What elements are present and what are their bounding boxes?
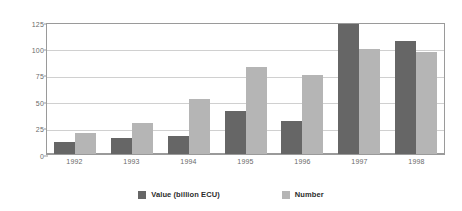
y-tick-label-125: 125 <box>8 20 44 27</box>
bar-value-1993 <box>111 138 132 154</box>
bar-value-1994 <box>168 136 189 154</box>
x-axis-label-1992: 1992 <box>46 158 103 165</box>
bar-group-1997 <box>331 24 388 154</box>
bar-number-1998 <box>416 52 437 154</box>
bar-value-1998 <box>395 41 416 154</box>
y-tick-label-50: 50 <box>8 99 44 106</box>
bar-group-1998 <box>387 24 444 154</box>
bar-group-1996 <box>274 24 331 154</box>
bar-number-1997 <box>359 49 380 154</box>
x-axis-label-1998: 1998 <box>388 158 445 165</box>
legend-item-number: Number <box>282 190 324 199</box>
x-axis-label-1993: 1993 <box>103 158 160 165</box>
legend-swatch-value-icon <box>138 191 146 199</box>
legend-item-value: Value (billion ECU) <box>138 190 220 199</box>
bar-value-1996 <box>281 121 302 154</box>
bar-group-1994 <box>160 24 217 154</box>
bar-chart: 125 100 75 50 25 0 19921 <box>0 0 462 211</box>
bar-number-1994 <box>189 99 210 154</box>
bar-group-1995 <box>217 24 274 154</box>
y-axis: 125 100 75 50 25 0 <box>0 23 44 156</box>
x-axis-label-1995: 1995 <box>217 158 274 165</box>
bar-number-1993 <box>132 123 153 154</box>
x-axis-label-1996: 1996 <box>274 158 331 165</box>
bar-group-1992 <box>47 24 104 154</box>
y-tick-label-25: 25 <box>8 126 44 133</box>
plot-area <box>46 23 445 155</box>
bar-group-1993 <box>104 24 161 154</box>
bar-number-1995 <box>246 67 267 154</box>
x-axis-label-1997: 1997 <box>331 158 388 165</box>
legend-swatch-number-icon <box>282 191 290 199</box>
x-axis-label-1994: 1994 <box>160 158 217 165</box>
bar-number-1992 <box>75 133 96 154</box>
y-tick-mark-0 <box>44 155 48 156</box>
chart-legend: Value (billion ECU) Number <box>0 190 462 199</box>
legend-label-number: Number <box>295 190 324 199</box>
bar-value-1995 <box>225 111 246 154</box>
y-tick-label-0: 0 <box>8 152 44 159</box>
bar-groups <box>47 24 444 154</box>
bar-value-1992 <box>54 142 75 154</box>
bar-value-1997 <box>338 24 359 154</box>
y-tick-label-75: 75 <box>8 73 44 80</box>
bar-number-1996 <box>302 75 323 154</box>
x-axis-labels: 1992199319941995199619971998 <box>46 158 445 165</box>
legend-label-value: Value (billion ECU) <box>151 190 220 199</box>
y-tick-label-100: 100 <box>8 46 44 53</box>
